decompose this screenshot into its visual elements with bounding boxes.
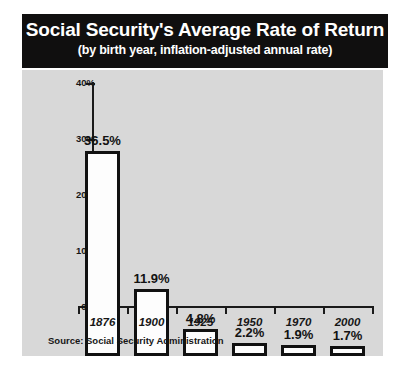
x-axis-label-1900: 1900 bbox=[127, 316, 176, 328]
bar-1970[interactable] bbox=[281, 345, 316, 356]
x-axis-label-1970: 1970 bbox=[274, 316, 323, 328]
x-axis-label-1950: 1950 bbox=[225, 316, 274, 328]
x-tick-boundary-6 bbox=[372, 307, 374, 314]
bar-value-1970: 1.9% bbox=[274, 327, 323, 342]
x-axis-label-2000: 2000 bbox=[323, 316, 372, 328]
bar-value-2000: 1.7% bbox=[323, 328, 372, 343]
x-axis-label-1925: 1925 bbox=[176, 316, 225, 328]
source-note: Source: Social Security Administration bbox=[48, 335, 223, 346]
plot-panel: 40% 30% 20% 10% 0% 36.5% bbox=[22, 70, 383, 356]
chart-title-band: Social Security's Average Rate of Return… bbox=[22, 14, 388, 68]
bar-2000[interactable] bbox=[330, 346, 365, 356]
y-axis-label-40: 40% bbox=[61, 77, 95, 88]
x-axis-label-1876: 1876 bbox=[78, 316, 127, 328]
bar-1950[interactable] bbox=[232, 343, 267, 356]
page-title: Social Security's Average Rate of Return bbox=[22, 18, 388, 42]
chart-subtitle: (by birth year, inflation-adjusted annua… bbox=[22, 42, 388, 59]
chart-figure: Social Security's Average Rate of Return… bbox=[0, 0, 412, 376]
bar-value-1876: 36.5% bbox=[78, 133, 127, 148]
bar-value-1900: 11.9% bbox=[127, 271, 176, 286]
